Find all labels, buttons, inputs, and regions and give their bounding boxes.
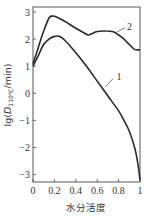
series-label-2: 2: [127, 21, 132, 32]
y-tick-label: 2: [25, 34, 30, 45]
y-tick-label: −2: [19, 142, 30, 153]
y-tick-label: 3: [25, 7, 30, 18]
plot-frame: [33, 7, 140, 182]
label-leader-line: [106, 78, 113, 86]
chart: 3210−1−2−3 00.20.40.60.81 12 水分活度 lg(D11…: [0, 0, 146, 218]
x-tick-label: 0: [31, 185, 36, 196]
y-axis-title: lg(D110℃/min): [2, 64, 14, 127]
series-lines: [33, 16, 140, 180]
y-tick-label: 0: [25, 88, 30, 99]
x-axis-title: 水分活度: [66, 202, 106, 213]
y-tick-label: 1: [25, 61, 30, 72]
x-tick-label: 0.8: [112, 185, 125, 196]
y-axis-ticks: 3210−1−2−3: [19, 7, 36, 181]
x-tick-label: 0.2: [48, 185, 61, 196]
series-line-1: [33, 36, 140, 180]
label-leader-line: [116, 28, 125, 33]
y-tick-label: −1: [19, 115, 30, 126]
series-label-1: 1: [116, 71, 121, 82]
x-tick-label: 1: [138, 185, 143, 196]
x-tick-label: 0.6: [91, 185, 104, 196]
y-tick-label: −3: [19, 169, 30, 180]
x-tick-label: 0.4: [70, 185, 83, 196]
